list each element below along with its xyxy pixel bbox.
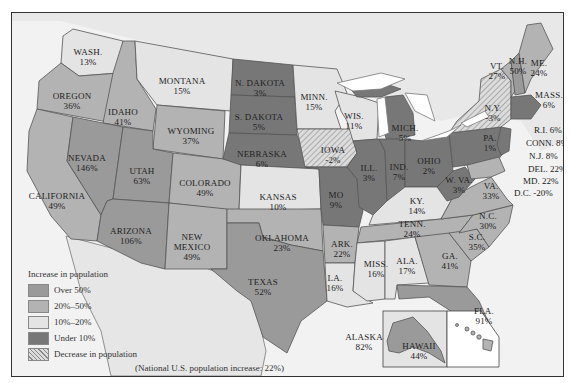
label-wva: W. VA.3%: [445, 175, 472, 195]
label-mo: MO9%: [329, 190, 344, 210]
label-me: ME.24%: [530, 58, 547, 78]
label-md: MD. 22%: [523, 176, 559, 186]
legend-swatch: [28, 300, 49, 313]
label-vt: VT.27%: [488, 61, 505, 81]
legend-item-over-50: Over 50%: [28, 282, 137, 298]
label-tenn: TENN.24%: [398, 219, 425, 239]
label-miss: MISS.16%: [364, 259, 388, 279]
legend-title: Increase in population: [28, 269, 137, 279]
label-mass: MASS.6%: [535, 90, 563, 110]
label-va: VA.33%: [482, 181, 499, 201]
legend-swatch-hatched: [28, 348, 49, 361]
label-wyoming: WYOMING37%: [168, 126, 215, 146]
label-california: CALIFORNIA49%: [29, 191, 86, 211]
label-ny: N.Y.-3%: [484, 103, 501, 123]
label-ill: ILL.3%: [360, 163, 377, 183]
label-colorado: COLORADO49%: [179, 178, 231, 198]
legend: Increase in population Over 50% 20%–50% …: [28, 269, 137, 362]
label-wash: WASH.13%: [74, 47, 103, 67]
label-kansas: KANSAS10%: [259, 192, 296, 212]
label-wis: WIS.11%: [344, 111, 364, 131]
legend-item-decrease: Decrease in population: [28, 346, 137, 362]
label-alaska: ALASKA82%: [345, 332, 383, 352]
label-iowa: IOWA-2%: [321, 145, 345, 165]
label-nevada: NEVADA146%: [68, 153, 106, 173]
label-sc: S.C.35%: [468, 232, 485, 252]
legend-swatch: [28, 284, 49, 297]
label-mich: MICH.5%: [392, 123, 419, 143]
label-ky: KY.14%: [408, 196, 425, 216]
map-frame: WASH.13% OREGON36% IDAHO41% MONTANA15% W…: [11, 12, 564, 377]
label-minn: MINN.15%: [300, 92, 327, 112]
label-s-dakota: S. DAKOTA5%: [235, 112, 284, 132]
legend-item-20-50: 20%–50%: [28, 298, 137, 314]
label-ind: IND.7%: [389, 162, 408, 182]
legend-item-10-20: 10%–20%: [28, 314, 137, 330]
label-montana: MONTANA15%: [159, 76, 206, 96]
label-new-mexico: NEWMEXICO49%: [174, 232, 211, 262]
label-dc: D.C. -20%: [514, 188, 553, 198]
label-ala: ALA.17%: [396, 256, 418, 276]
label-pa: PA.1%: [483, 133, 497, 153]
label-nc: N.C.30%: [479, 211, 497, 231]
label-n-dakota: N. DAKOTA3%: [235, 78, 285, 98]
legend-swatch: [28, 316, 49, 329]
label-nj: N.J. 8%: [529, 151, 558, 161]
label-idaho: IDAHO41%: [108, 107, 138, 127]
label-fla: FLA.91%: [474, 306, 494, 326]
label-hawaii: HAWAII44%: [402, 341, 435, 361]
legend-swatch: [28, 332, 49, 345]
label-arizona: ARIZONA106%: [110, 226, 152, 246]
label-ohio: OHIO2%: [417, 156, 440, 176]
label-la: LA.16%: [326, 273, 343, 293]
label-del: DEL. 22%: [528, 164, 564, 174]
label-ark: ARK.22%: [331, 239, 353, 259]
label-oklahoma: OKLAHOMA23%: [255, 233, 309, 253]
label-nebraska: NEBRASKA6%: [237, 149, 287, 169]
label-texas: TEXAS52%: [248, 277, 278, 297]
label-ga: GA.41%: [441, 251, 458, 271]
label-utah: UTAH63%: [129, 166, 154, 186]
label-oregon: OREGON36%: [53, 91, 92, 111]
national-note: (National U.S. population increase: 22%): [135, 363, 284, 373]
label-nh: N.H.50%: [509, 56, 527, 76]
label-ri: R.I. 6%: [534, 125, 562, 135]
legend-item-under-10: Under 10%: [28, 330, 137, 346]
label-conn: CONN. 8%: [526, 138, 564, 148]
